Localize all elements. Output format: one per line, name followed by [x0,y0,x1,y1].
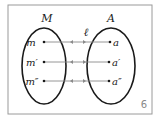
element-m-prime: m′ [26,57,38,68]
element-m: m [26,37,35,48]
mapping-label: ℓ [84,26,89,39]
element-a: a [113,37,119,48]
mapping-row-1 [43,40,112,44]
point-a-prime [108,61,111,64]
point-m [43,41,46,44]
element-a-double-prime: a″ [112,76,122,87]
arrow-left-icon [70,60,73,64]
arrow-right-icon [83,40,86,44]
set-a-label: A [106,12,115,25]
mapping-diagram: M A ℓ m m′ m″ a a′ a″ 6 [0,0,157,119]
arrow-right-icon [83,60,86,64]
arrow-left-icon [70,40,73,44]
element-a-prime: a′ [112,57,121,68]
mapping-row-2 [43,60,111,64]
figure-number: 6 [141,99,147,110]
set-a-ellipse [87,28,135,104]
element-m-double-prime: m″ [25,76,38,87]
point-m-double-prime [43,80,46,83]
point-a-double-prime [108,80,111,83]
point-m-prime [43,61,46,64]
set-m-label: M [40,12,53,25]
arrow-right-icon [83,79,86,83]
arrow-left-icon [70,79,73,83]
point-a [109,41,112,44]
mapping-row-3 [43,79,111,83]
